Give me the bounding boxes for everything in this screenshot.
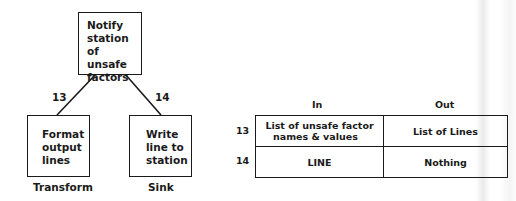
cell-text-line: List of unsafe factor (256, 120, 383, 131)
cell-text-line: names & values (256, 131, 383, 142)
node-label-line: line to (146, 141, 188, 154)
table-row: LINE Nothing (256, 147, 508, 178)
node-write-line-label: Write line to station (146, 128, 188, 167)
node-label-line: lines (42, 154, 84, 167)
node-notify-station: Notify station of unsafe factors (78, 12, 142, 75)
column-header-out: Out (435, 99, 454, 110)
caption-sink: Sink (148, 181, 174, 193)
node-label-line: Write (146, 128, 188, 141)
node-label-line: station (146, 154, 188, 167)
table-cell-out: List of Lines (384, 116, 508, 147)
edge-14-label: 14 (155, 91, 170, 103)
row-number-13: 13 (236, 125, 249, 136)
node-notify-station-label: Notify station of unsafe factors (87, 19, 141, 84)
io-table: List of unsafe factor names & values Lis… (255, 115, 508, 178)
table-cell-out: Nothing (384, 147, 508, 178)
node-write-line: Write line to station (129, 115, 192, 177)
node-label-line: of unsafe (87, 45, 141, 71)
row-number-14: 14 (236, 155, 249, 166)
caption-transform: Transform (33, 181, 93, 193)
table-row: List of unsafe factor names & values Lis… (256, 116, 508, 147)
column-header-in: In (312, 99, 322, 110)
node-format-output-label: Format output lines (42, 128, 84, 167)
node-label-line: Format (42, 128, 84, 141)
node-label-line: station (87, 32, 141, 45)
edge-13-label: 13 (52, 91, 67, 103)
node-format-output: Format output lines (27, 115, 90, 177)
node-label-line: output (42, 141, 84, 154)
table-cell-in: LINE (256, 147, 384, 178)
node-label-line: Notify (87, 19, 141, 32)
table-cell-in: List of unsafe factor names & values (256, 116, 384, 147)
node-label-line: factors (87, 71, 141, 84)
